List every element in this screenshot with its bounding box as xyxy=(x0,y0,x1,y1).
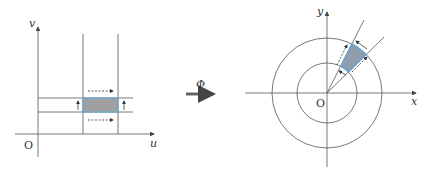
origin-label: O xyxy=(24,139,33,152)
v-axis-label: v xyxy=(29,17,36,30)
y-axis-label: y xyxy=(316,5,324,18)
xy-plane: y x O xyxy=(245,5,418,167)
x-axis-label: x xyxy=(411,95,418,108)
origin-label-right: O xyxy=(316,97,325,110)
u-axis-label: u xyxy=(150,137,157,150)
conformal-map-diagram: v u O Φ y x O xyxy=(0,0,431,173)
arc-arrow-inner xyxy=(339,71,346,75)
uv-plane: v u O xyxy=(15,17,157,157)
source-region xyxy=(83,98,118,112)
image-region xyxy=(341,44,367,72)
phi-label: Φ xyxy=(196,78,205,91)
mapping-phi: Φ xyxy=(186,78,213,94)
